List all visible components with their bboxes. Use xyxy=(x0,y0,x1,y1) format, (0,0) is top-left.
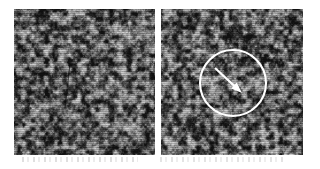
texture-canvas xyxy=(161,9,303,155)
scan-smudge-artifact xyxy=(160,157,286,162)
panel-right xyxy=(161,9,303,155)
scan-smudge-artifact xyxy=(22,157,138,162)
texture-canvas xyxy=(14,9,155,155)
panel-left xyxy=(14,9,155,155)
figure-root xyxy=(0,0,320,169)
